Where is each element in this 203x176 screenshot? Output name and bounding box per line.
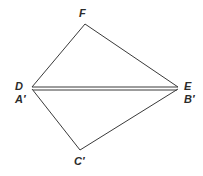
vertex-label-F: F bbox=[79, 7, 86, 19]
edge-Cprime-Bprime bbox=[80, 89, 178, 150]
vertex-label-Cprime: C′ bbox=[74, 155, 85, 167]
edge-F-E bbox=[85, 24, 178, 87]
vertex-label-Bprime: B′ bbox=[184, 93, 195, 105]
vertex-label-E: E bbox=[184, 80, 191, 92]
vertex-label-group-right: E B′ bbox=[184, 80, 195, 105]
diagram-canvas bbox=[0, 0, 203, 176]
geometry-figure: F D A′ E B′ C′ bbox=[0, 0, 203, 176]
vertex-label-Aprime: A′ bbox=[15, 93, 26, 105]
vertex-label-D: D bbox=[15, 80, 23, 92]
vertex-label-group-left: D A′ bbox=[15, 80, 26, 105]
edge-D-F bbox=[32, 24, 85, 87]
edge-Aprime-Cprime bbox=[32, 89, 80, 150]
